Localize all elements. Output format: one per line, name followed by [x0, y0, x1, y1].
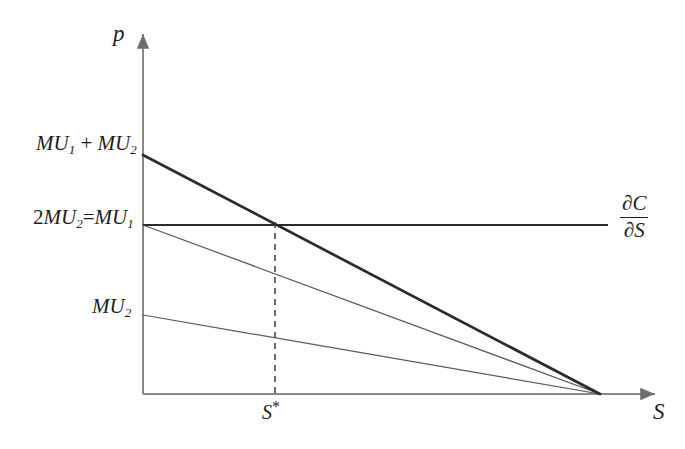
- plus-operator: +: [75, 131, 97, 155]
- curve-label-aggregate-demand: MU1 + MU2: [36, 133, 137, 156]
- partial-derivative-numerator: ∂C: [620, 192, 648, 216]
- mu-base-lower: MU: [44, 205, 77, 229]
- marginal-cost-label: ∂C ∂S: [620, 192, 648, 242]
- economics-demand-diagram: p S MU1 + MU2 2MU2=MU1 MU2 S* ∂C ∂S: [0, 0, 685, 449]
- mu-base-1: MU: [36, 131, 69, 155]
- mu2-subscript: 2: [125, 305, 132, 320]
- mu-base-upper: MU: [95, 205, 128, 229]
- curve-label-equality: 2MU2=MU1: [33, 207, 134, 230]
- curve-label-mu2: MU2: [92, 296, 131, 319]
- optimal-quantity-label: S*: [262, 399, 280, 422]
- curve-mu2: [143, 315, 600, 394]
- curve-aggregate-demand: [143, 155, 600, 394]
- mu-base-2: MU: [98, 131, 131, 155]
- equals-operator: =: [83, 205, 95, 229]
- mu-subscript-upper: 1: [127, 216, 134, 231]
- coefficient-two: 2: [33, 205, 44, 229]
- x-axis-label: S: [653, 400, 665, 423]
- mu2-base: MU: [92, 294, 125, 318]
- mu-subscript-2: 2: [130, 142, 137, 157]
- partial-derivative-denominator: ∂S: [620, 219, 648, 243]
- s-star-asterisk: *: [272, 398, 280, 415]
- s-star-base: S: [262, 401, 272, 423]
- y-axis-label: p: [113, 22, 125, 45]
- curve-mu1: [143, 225, 600, 394]
